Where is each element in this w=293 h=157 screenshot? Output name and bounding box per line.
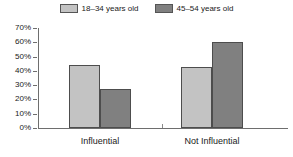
- bar-not-influential-series-1: [181, 67, 212, 128]
- y-tick-mark: [33, 42, 37, 43]
- y-tick-mark: [33, 85, 37, 86]
- legend-swatch-icon-45-54: [155, 4, 173, 13]
- y-tick-label: 50%: [0, 53, 31, 61]
- legend-entry-45-54: 45–54 years old: [155, 4, 234, 13]
- bar-influential-series-2: [100, 89, 131, 128]
- bar-chart: 18–34 years old 45–54 years old 70%60%50…: [0, 0, 293, 157]
- chart-legend: 18–34 years old 45–54 years old: [0, 4, 293, 13]
- bar-influential-series-1: [69, 65, 100, 128]
- x-axis-line: [38, 128, 288, 129]
- y-tick-label: 40%: [0, 67, 31, 75]
- legend-label-45-54: 45–54 years old: [177, 4, 234, 13]
- legend-swatch-icon-18-34: [60, 4, 78, 13]
- y-tick-mark: [33, 114, 37, 115]
- y-tick-mark: [33, 128, 37, 129]
- y-tick-label: 30%: [0, 81, 31, 89]
- legend-entry-18-34: 18–34 years old: [60, 4, 139, 13]
- legend-label-18-34: 18–34 years old: [82, 4, 139, 13]
- y-tick-mark: [33, 71, 37, 72]
- y-tick-label: 0%: [0, 124, 31, 132]
- y-tick-label: 60%: [0, 38, 31, 46]
- y-tick-label: 70%: [0, 24, 31, 32]
- y-tick-label: 10%: [0, 110, 31, 118]
- y-tick-mark: [33, 28, 37, 29]
- x-category-label-not-influential: Not Influential: [152, 136, 272, 146]
- plot-area: [38, 28, 286, 128]
- bar-not-influential-series-2: [212, 42, 243, 128]
- y-tick-label: 20%: [0, 95, 31, 103]
- y-tick-mark: [33, 57, 37, 58]
- x-category-label-influential: Influential: [40, 136, 160, 146]
- y-tick-mark: [33, 99, 37, 100]
- x-axis-minor-tick: [162, 124, 163, 128]
